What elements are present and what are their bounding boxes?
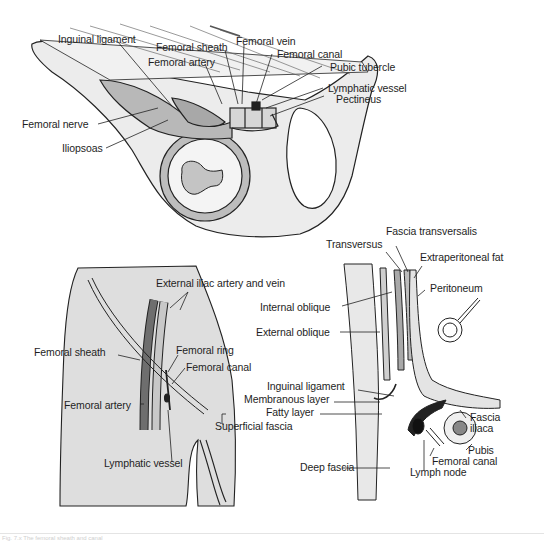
label-fatty-layer: Fatty layer [266, 407, 314, 418]
label-femoral-sheath: Femoral sheath [156, 42, 228, 53]
label-deep-fascia: Deep fascia [300, 462, 354, 473]
label-membranous-layer: Membranous layer [244, 394, 329, 405]
label-iliopsoas: Iliopsoas [62, 143, 103, 154]
label-internal-oblique: Internal oblique [260, 302, 330, 313]
label-fascia-transversalis: Fascia transversalis [386, 226, 477, 237]
label-femoral-sheath-thigh: Femoral sheath [34, 347, 106, 358]
label-fascia-iliaca: Fascia iliaca [470, 412, 502, 434]
label-lymph-node: Lymph node [410, 467, 466, 478]
label-peritoneum: Peritoneum [430, 283, 483, 294]
label-femoral-artery-thigh: Femoral artery [64, 400, 131, 411]
label-femoral-nerve: Femoral nerve [22, 119, 88, 130]
label-pubic-tubercle: Pubic tubercle [330, 62, 395, 73]
thigh-illustration [60, 266, 235, 506]
label-external-oblique: External oblique [256, 327, 330, 338]
label-lymphatic-vessel-thigh: Lymphatic vessel [104, 458, 183, 469]
spermatic-cord-section [438, 298, 480, 342]
label-inguinal-ligament-section: Inguinal ligament [267, 381, 345, 392]
label-pectineus: Pectineus [336, 94, 381, 105]
label-extraperitoneal-fat: Extraperitoneal fat [420, 252, 503, 263]
label-inguinal-ligament: Inguinal ligament [58, 34, 136, 45]
hip-bone-illustration [32, 40, 378, 237]
label-superficial-fascia: Superficial fascia [215, 421, 293, 432]
label-femoral-vein: Femoral vein [236, 36, 296, 47]
label-femoral-ring: Femoral ring [176, 345, 234, 356]
label-transversus: Transversus [326, 239, 382, 250]
label-external-iliac-artery-and-vein: External iliac artery and vein [156, 278, 285, 289]
label-femoral-canal-thigh: Femoral canal [186, 362, 251, 373]
label-femoral-artery: Femoral artery [148, 57, 215, 68]
caption-divider [0, 533, 544, 534]
figure-caption: Fig. 7.x The femoral sheath and canal [2, 535, 103, 541]
label-femoral-canal: Femoral canal [277, 49, 342, 60]
